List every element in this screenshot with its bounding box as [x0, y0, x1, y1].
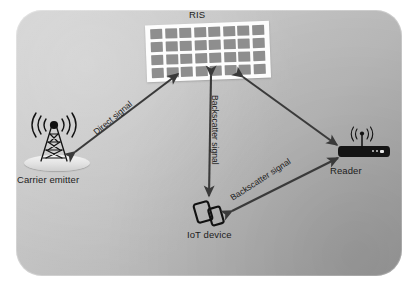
carrier-emitter-label: Carrier emitter [17, 175, 79, 185]
link-ris-reader [243, 77, 337, 145]
ris-label: RIS [189, 10, 205, 20]
iot-device-label: IoT device [187, 230, 232, 240]
reader-label: Reader [330, 166, 362, 176]
signal-arrows-layer [0, 0, 418, 287]
backscatter-signal-vertical-label: Backscatter signal [210, 95, 219, 165]
link-direct-signal [75, 74, 178, 152]
diagram-figure: RIS Carrier emitter Reader IoT device Di… [0, 0, 418, 287]
